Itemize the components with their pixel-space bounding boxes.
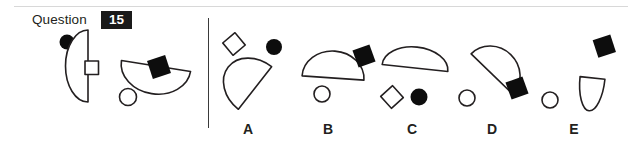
option-e-letter: E [562,121,586,137]
option-c-letter: C [400,121,424,137]
option-d-figure[interactable] [456,38,538,114]
white-diamond-icon [381,86,404,109]
prompt-figure-1 [36,30,108,110]
option-a-figure[interactable] [218,30,290,115]
half-disc-icon [212,46,272,109]
question-label: Question [32,12,87,27]
option-e-figure[interactable] [536,30,626,115]
black-diamond-icon [593,35,616,58]
white-square-icon [85,61,99,75]
option-d-letter: D [480,121,504,137]
white-circle-icon [314,86,330,102]
white-circle-icon [542,92,558,108]
option-b-figure[interactable] [296,38,376,113]
white-circle-icon [459,90,475,106]
half-disc-icon [382,44,450,72]
top-divider-rule [14,6,628,7]
black-circle-icon [266,39,282,55]
half-disc-icon [577,77,605,112]
white-circle-icon [120,89,137,106]
vertical-divider [208,18,209,128]
black-circle-icon [411,89,428,106]
white-diamond-icon [223,33,246,56]
puzzle-panel: Question 15 [0,0,642,149]
option-a-letter: A [236,121,260,137]
option-b-letter: B [316,121,340,137]
prompt-figure-2 [112,48,200,110]
option-c-figure[interactable] [374,42,456,114]
question-number-badge: 15 [101,11,132,29]
